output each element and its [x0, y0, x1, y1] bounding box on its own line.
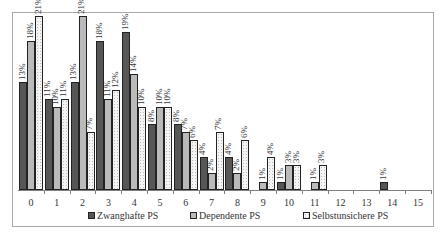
bar-value-label: 3% — [292, 151, 301, 163]
bar-value-label: 21% — [34, 0, 43, 14]
bar-zwanghafte-ps — [19, 82, 27, 190]
bar-value-label: 4% — [224, 143, 233, 155]
x-tick — [44, 190, 45, 194]
bar-value-label: 10% — [163, 89, 172, 106]
bar-selbstunsichere-ps — [267, 157, 275, 190]
x-tick-label: 12 — [331, 197, 351, 208]
x-tick-label: 1 — [47, 197, 67, 208]
x-tick-label: 5 — [150, 197, 170, 208]
legend-swatch-dependente — [190, 212, 197, 219]
bar-value-label: 2% — [206, 159, 215, 171]
bar-dependente-ps — [311, 182, 319, 190]
x-tick-label: 2 — [73, 197, 93, 208]
bar-dependente-ps — [285, 165, 293, 190]
bar-value-label: 1% — [309, 168, 318, 180]
bar-selbstunsichere-ps — [35, 16, 43, 190]
x-tick — [250, 190, 251, 194]
bar-value-label: 13% — [18, 64, 27, 81]
bar-value-label: 18% — [95, 22, 104, 39]
bar-dependente-ps — [233, 173, 241, 190]
bar-value-label: 7% — [214, 118, 223, 130]
bar-value-label: 7% — [85, 118, 94, 130]
bar-selbstunsichere-ps — [293, 165, 301, 190]
plot-area: 13%18%21%11%10%11%13%21%7%18%11%12%19%14… — [18, 12, 434, 190]
bar-dependente-ps — [182, 132, 190, 190]
x-tick — [173, 190, 174, 194]
x-tick — [431, 190, 432, 194]
legend-item-selbstunsichere: Selbstunsichere PS — [303, 210, 388, 221]
bar-zwanghafte-ps — [277, 182, 285, 190]
x-tick — [199, 190, 200, 194]
x-tick-label: 11 — [305, 197, 325, 208]
bar-value-label: 12% — [111, 72, 120, 89]
bar-zwanghafte-ps — [174, 124, 182, 190]
x-tick-label: 13 — [356, 197, 376, 208]
bar-zwanghafte-ps — [96, 41, 104, 190]
legend-item-dependente: Dependente PS — [190, 210, 260, 221]
x-tick — [379, 190, 380, 194]
bar-value-label: 19% — [121, 14, 130, 31]
bar-value-label: 6% — [240, 126, 249, 138]
x-tick — [224, 190, 225, 194]
x-tick — [276, 190, 277, 194]
bar-selbstunsichere-ps — [61, 99, 69, 190]
bar-value-label: 1% — [258, 168, 267, 180]
bar-value-label: 4% — [266, 143, 275, 155]
x-tick — [405, 190, 406, 194]
bar-selbstunsichere-ps — [87, 132, 95, 190]
bar-value-label: 13% — [69, 64, 78, 81]
x-tick-label: 7 — [202, 197, 222, 208]
bar-dependente-ps — [259, 182, 267, 190]
bar-zwanghafte-ps — [45, 99, 53, 190]
bar-selbstunsichere-ps — [319, 165, 327, 190]
legend-swatch-selbstunsichere — [303, 212, 310, 219]
x-tick-label: 3 — [98, 197, 118, 208]
bar-selbstunsichere-ps — [112, 90, 120, 190]
x-tick-label: 15 — [408, 197, 428, 208]
x-tick-label: 6 — [176, 197, 196, 208]
x-tick — [70, 190, 71, 194]
bar-value-label: 1% — [276, 168, 285, 180]
bar-value-label: 4% — [198, 143, 207, 155]
x-tick-label: 4 — [124, 197, 144, 208]
x-tick-label: 0 — [21, 197, 41, 208]
bar-dependente-ps — [104, 99, 112, 190]
bar-selbstunsichere-ps — [138, 107, 146, 190]
legend-item-zwanghafte: Zwanghafte PS — [88, 210, 158, 221]
legend-label-zwanghafte: Zwanghafte PS — [97, 210, 158, 221]
x-tick — [302, 190, 303, 194]
bar-value-label: 21% — [77, 0, 86, 14]
bar-value-label: 1% — [379, 168, 388, 180]
x-tick-label: 10 — [279, 197, 299, 208]
x-tick — [147, 190, 148, 194]
bar-value-label: 3% — [317, 151, 326, 163]
x-tick — [328, 190, 329, 194]
x-tick-label: 14 — [382, 197, 402, 208]
legend-swatch-zwanghafte — [88, 212, 95, 219]
bar-value-label: 6% — [188, 126, 197, 138]
bar-value-label: 2% — [232, 159, 241, 171]
bar-selbstunsichere-ps — [216, 132, 224, 190]
bar-value-label: 10% — [137, 89, 146, 106]
bar-selbstunsichere-ps — [241, 140, 249, 190]
bar-value-label: 11% — [59, 81, 68, 97]
x-tick — [353, 190, 354, 194]
x-tick — [121, 190, 122, 194]
bar-dependente-ps — [53, 107, 61, 190]
bar-zwanghafte-ps — [380, 182, 388, 190]
bar-zwanghafte-ps — [71, 82, 79, 190]
bar-dependente-ps — [27, 41, 35, 190]
x-tick-label: 9 — [253, 197, 273, 208]
bar-value-label: 8% — [147, 110, 156, 122]
x-tick — [95, 190, 96, 194]
bar-value-label: 18% — [26, 22, 35, 39]
bar-dependente-ps — [156, 107, 164, 190]
bar-value-label: 14% — [129, 55, 138, 72]
bar-zwanghafte-ps — [148, 124, 156, 190]
bar-dependente-ps — [79, 16, 87, 190]
x-tick-label: 8 — [227, 197, 247, 208]
bar-dependente-ps — [208, 173, 216, 190]
legend-label-dependente: Dependente PS — [199, 210, 260, 221]
legend-label-selbstunsichere: Selbstunsichere PS — [312, 210, 388, 221]
